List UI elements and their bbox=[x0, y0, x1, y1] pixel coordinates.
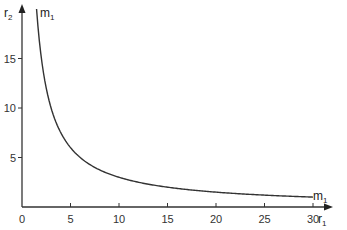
x-tick-label: 0 bbox=[19, 213, 25, 225]
axes bbox=[19, 4, 334, 211]
x-tick-label: 5 bbox=[67, 213, 73, 225]
curve-label-top: m1 bbox=[40, 6, 55, 22]
x-axis-label: r1 bbox=[318, 212, 327, 228]
y-tick-label: 15 bbox=[4, 53, 16, 65]
y-axis-label: r2 bbox=[4, 6, 13, 22]
hyperbola-chart: 051015202530 51015 r1 r2 m1 m1 bbox=[0, 0, 347, 230]
x-tick-label: 20 bbox=[210, 213, 222, 225]
x-ticks: 051015202530 bbox=[19, 203, 319, 225]
series-m1-curve bbox=[37, 9, 313, 197]
x-tick-label: 15 bbox=[161, 213, 173, 225]
curve-label-end: m1 bbox=[313, 189, 328, 205]
y-axis-arrow-icon bbox=[19, 4, 26, 13]
y-tick-label: 5 bbox=[10, 152, 16, 164]
y-ticks: 51015 bbox=[4, 53, 22, 164]
y-tick-label: 10 bbox=[4, 102, 16, 114]
x-tick-label: 25 bbox=[258, 213, 270, 225]
x-tick-label: 10 bbox=[113, 213, 125, 225]
